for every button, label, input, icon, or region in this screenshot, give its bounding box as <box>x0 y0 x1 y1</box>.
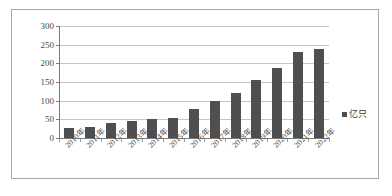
plot-area <box>59 26 329 138</box>
x-axis-tick-mark <box>101 139 102 142</box>
y-axis-line <box>59 26 60 139</box>
gridline <box>59 82 329 83</box>
x-axis-tick-mark <box>287 139 288 142</box>
legend-swatch-icon <box>342 112 347 117</box>
x-axis-tick-mark <box>184 139 185 142</box>
y-axis-tick-label: 250 <box>24 41 54 50</box>
x-axis-tick-mark <box>267 139 268 142</box>
bar <box>314 49 324 138</box>
x-axis-tick-mark <box>204 139 205 142</box>
y-axis-tick-label: 150 <box>24 78 54 87</box>
gridline <box>59 101 329 102</box>
x-axis-tick-mark <box>142 139 143 142</box>
bar <box>293 52 303 138</box>
bar <box>272 68 282 138</box>
x-axis-tick-mark <box>225 139 226 142</box>
y-axis-tick-label: 0 <box>24 134 54 143</box>
x-axis-tick-mark <box>59 139 60 142</box>
x-axis-tick-mark <box>308 139 309 142</box>
bar <box>251 80 261 138</box>
gridline <box>59 26 329 27</box>
legend-label: 亿只 <box>349 110 367 119</box>
y-axis-tick-label: 200 <box>24 59 54 68</box>
gridline <box>59 63 329 64</box>
chart-legend: 亿只 <box>342 110 367 119</box>
gridline <box>59 45 329 46</box>
x-axis-tick-mark <box>163 139 164 142</box>
y-axis-tick-label: 300 <box>24 22 54 31</box>
x-axis-tick-mark <box>121 139 122 142</box>
y-axis-tick-label: 50 <box>24 115 54 124</box>
y-axis-tick-label: 100 <box>24 97 54 106</box>
bar <box>231 93 241 138</box>
x-axis-tick-mark <box>329 139 330 142</box>
y-axis-tick-labels: 300250200150100500 <box>20 10 54 155</box>
chart-container: 300250200150100500 2010年2011年2012年2013年2… <box>11 9 379 179</box>
x-axis-tick-mark <box>246 139 247 142</box>
x-axis-tick-mark <box>80 139 81 142</box>
